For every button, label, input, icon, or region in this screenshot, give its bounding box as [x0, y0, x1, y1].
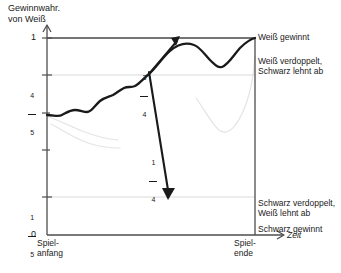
fraction-numerator: 3 — [140, 74, 148, 81]
fraction-denominator: 5 — [28, 251, 36, 258]
x-end-label: Spiel- ende — [234, 238, 256, 258]
annotation-schwarz-verdoppelt: Schwarz verdoppelt, Weiß lehnt ab — [258, 198, 335, 218]
fraction-four-fifths: 4 5 — [28, 78, 36, 150]
y-tick-label-one: 1 — [22, 32, 36, 42]
y-axis-title: Gewinnwahr. von Weiß — [8, 3, 60, 25]
up-branch-probability: 3 4 — [136, 50, 148, 132]
fraction-numerator: 1 — [149, 159, 157, 166]
fraction-denominator: 5 — [28, 129, 36, 136]
fraction-one-quarter: 1 4 — [149, 145, 157, 217]
y-axis — [43, 25, 51, 235]
annotation-weiss-verdoppelt: Weiß verdoppelt, Schwarz lehnt ab — [258, 56, 323, 76]
x-axis-title: Zeit — [287, 230, 301, 240]
fraction-numerator: 4 — [28, 92, 36, 99]
win-probability-curve — [47, 38, 255, 116]
fraction-bar — [149, 181, 157, 182]
y-tick-label-four-fifths: 4 5 — [22, 68, 36, 150]
fraction-numerator: 1 — [28, 214, 36, 221]
down-branch-probability: 1 4 — [145, 135, 157, 217]
fraction-bar — [140, 96, 148, 97]
branch-up-arrow — [149, 36, 180, 74]
y-tick-label-zero: 0 — [22, 229, 36, 239]
annotation-weiss-gewinnt: Weiß gewinnt — [258, 32, 309, 42]
x-start-label: Spiel- anfang — [37, 238, 63, 258]
fraction-bar — [28, 114, 36, 115]
fraction-denominator: 4 — [149, 196, 157, 203]
fraction-denominator: 4 — [140, 111, 148, 118]
fraction-three-quarters: 3 4 — [140, 60, 148, 132]
